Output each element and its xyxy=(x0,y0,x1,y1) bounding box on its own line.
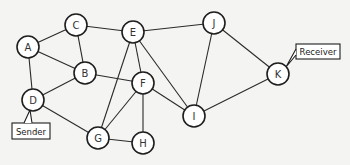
edge-e-j xyxy=(133,23,214,32)
node-label: K xyxy=(275,69,282,80)
receiver-callout-pointer xyxy=(286,49,296,67)
receiver-label: Receiver xyxy=(300,47,337,57)
node-label: F xyxy=(140,78,146,89)
node-i: I xyxy=(183,105,205,127)
node-label: E xyxy=(130,27,136,38)
edge-i-j xyxy=(194,23,214,116)
node-label: C xyxy=(73,20,80,31)
node-b: B xyxy=(74,62,96,84)
node-g: G xyxy=(87,127,109,149)
node-d: D xyxy=(22,89,44,111)
node-label: G xyxy=(94,133,102,144)
sender-callout: Sender xyxy=(12,110,50,139)
node-k: K xyxy=(267,63,289,85)
receiver-callout: Receiver xyxy=(286,44,340,67)
node-e: E xyxy=(122,21,144,43)
node-c: C xyxy=(65,14,87,36)
sender-label: Sender xyxy=(16,127,47,137)
node-label: D xyxy=(29,95,37,106)
node-label: B xyxy=(82,68,89,79)
node-label: J xyxy=(212,18,216,29)
sender-callout-pointer xyxy=(24,110,32,123)
node-j: J xyxy=(203,12,225,34)
edge-e-g xyxy=(98,32,133,138)
edge-i-k xyxy=(194,74,278,116)
edge-j-k xyxy=(214,23,278,74)
node-f: F xyxy=(132,72,154,94)
graph-canvas: SenderReceiver ABCDEFGHIJK xyxy=(0,0,350,165)
node-label: H xyxy=(139,138,147,149)
node-label: I xyxy=(193,111,196,122)
node-h: H xyxy=(132,132,154,154)
network-diagram: SenderReceiver ABCDEFGHIJK xyxy=(0,0,350,165)
node-label: A xyxy=(25,42,32,53)
node-a: A xyxy=(17,36,39,58)
